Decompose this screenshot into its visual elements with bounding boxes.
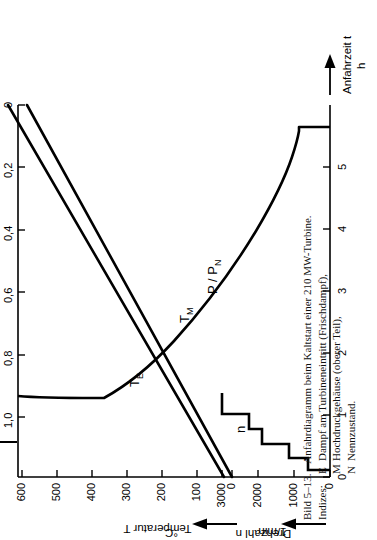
curve-label-t-m-symbol: T	[177, 315, 192, 323]
curve-label-t-m-subscript: M	[185, 308, 195, 316]
power-tick-0-4: 0,4	[3, 226, 14, 241]
caption-number: Bild 5–13.	[301, 474, 313, 520]
curve-label-t-e-subscript: E	[135, 373, 145, 379]
power-tick-0-2: 0,2	[3, 163, 14, 178]
temperature-axis-ticks	[22, 470, 232, 477]
speed-tick-2000: 2000	[252, 483, 263, 517]
power-axis-ticks	[18, 105, 25, 417]
caption-index-row-m: M Hochdruckgehäuse (oberer Teil),	[329, 220, 344, 520]
index-text-n: Nennzustand.	[344, 401, 359, 461]
curve-t-m	[27, 105, 232, 477]
curve-label-t-m: TM	[178, 308, 197, 323]
power-tick-1-0: 1,0	[3, 413, 14, 428]
index-symbol-m: M	[329, 461, 344, 474]
curve-label-p-pn-symbol: P / P	[205, 266, 220, 294]
index-text-m: Hochdruckgehäuse (oberer Teil),	[329, 316, 344, 461]
temperature-tick-200: 200	[156, 483, 167, 511]
temperature-tick-300: 300	[121, 483, 132, 511]
speed-tick-3000: 3000	[216, 483, 227, 517]
power-tick-0-6: 0,6	[3, 288, 14, 303]
caption-title-line: Bild 5–13. Anfahrdiagramm beim Kaltstart…	[300, 220, 315, 520]
x-tick-5: 5	[337, 164, 348, 170]
power-tick-0: 0	[3, 102, 14, 108]
temperature-tick-500: 500	[51, 483, 62, 511]
caption-text: Anfahrdiagramm beim Kaltstart einer 210 …	[301, 215, 313, 463]
temperature-tick-0: 0	[226, 483, 237, 497]
speed-axis-title-line2: 1/min	[258, 525, 286, 538]
temperature-axis-title-line1: Temperatur T	[123, 522, 191, 535]
index-text-e: Dampf am Turbineneintritt (Frischdampf),	[315, 274, 330, 461]
index-symbol-n: N	[344, 461, 359, 474]
x-axis-arrow-icon	[323, 53, 337, 95]
curve-label-p-pn: P / PN	[206, 260, 225, 294]
curve-label-t-e: TE	[128, 373, 147, 387]
x-axis-title-line1: Anfahrzeit t	[341, 36, 354, 94]
curve-label-n: n	[234, 426, 247, 433]
curve-t-e	[8, 105, 224, 477]
caption-index-row-n: N Nennzustand.	[344, 220, 359, 520]
curve-label-t-e-symbol: T	[127, 379, 142, 387]
temperature-axis-arrow-icon	[192, 517, 238, 531]
indices-spacer-m	[329, 474, 344, 520]
speed-tick-1000: 1000	[288, 483, 299, 517]
index-symbol-e: E	[315, 461, 330, 474]
power-axis-arrow-icon	[0, 435, 18, 449]
temperature-tick-600: 600	[16, 483, 27, 511]
indices-spacer-n	[344, 474, 359, 520]
power-tick-0-8: 0,8	[3, 351, 14, 366]
temperature-tick-400: 400	[86, 483, 97, 511]
indices-label: Indizes:	[315, 474, 330, 520]
curve-p-pn	[18, 127, 330, 398]
caption-index-row-e: Indizes: E Dampf am Turbineneintritt (Fr…	[315, 220, 330, 520]
curve-label-p-pn-subscript: N	[213, 260, 223, 267]
x-axis-title-line2: h	[355, 63, 368, 69]
temperature-tick-100: 100	[191, 483, 202, 511]
temperature-axis-title-line2: °C	[165, 526, 178, 539]
figure-caption-block: Bild 5–13. Anfahrdiagramm beim Kaltstart…	[300, 220, 377, 520]
